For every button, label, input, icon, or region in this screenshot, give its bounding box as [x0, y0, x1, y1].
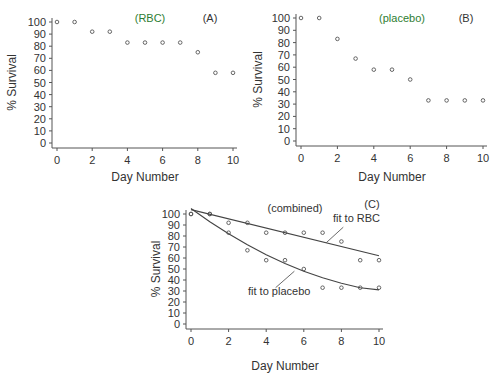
chart-panel-b: 01020304050607080901000246810Day Number%… [251, 12, 489, 184]
data-point [264, 231, 268, 235]
y-tick-label: 50 [278, 74, 290, 86]
y-tick-label: 80 [168, 230, 180, 242]
x-tick-label: 8 [195, 154, 201, 166]
y-tick-label: 40 [34, 89, 46, 101]
data-point [340, 240, 344, 244]
y-tick-label: 90 [168, 219, 180, 231]
panel-label: (A) [203, 12, 218, 24]
y-axis-label: % Survival [149, 241, 163, 298]
data-point [231, 71, 235, 75]
data-point [108, 30, 112, 34]
data-point [302, 231, 306, 235]
y-tick-label: 30 [278, 98, 290, 110]
y-tick-label: 80 [278, 37, 290, 49]
data-point [143, 41, 147, 45]
data-point [372, 68, 376, 72]
y-tick-label: 40 [168, 274, 180, 286]
panel-title: (combined) [267, 202, 322, 214]
panel-label: (C) [364, 198, 379, 210]
y-tick-label: 10 [34, 125, 46, 137]
x-tick-label: 8 [338, 335, 344, 347]
chart-figure: 01020304050607080901000246810Day Number%… [0, 0, 499, 375]
x-tick-label: 4 [124, 154, 130, 166]
data-point [377, 258, 381, 262]
annotation-fit-placebo: fit to placebo [248, 285, 310, 297]
x-tick-label: 2 [334, 152, 340, 164]
x-tick-label: 10 [477, 152, 489, 164]
panel-title: (placebo) [379, 12, 425, 24]
y-tick-label: 40 [278, 86, 290, 98]
data-point [73, 20, 77, 24]
data-point [90, 30, 94, 34]
y-tick-label: 30 [168, 285, 180, 297]
data-point [214, 71, 218, 75]
y-tick-label: 70 [34, 52, 46, 64]
y-tick-label: 50 [34, 77, 46, 89]
y-tick-label: 30 [34, 101, 46, 113]
chart-panel-c: 01020304050607080901000246810Day Number%… [149, 198, 385, 373]
x-tick-label: 8 [444, 152, 450, 164]
panel-label: (B) [459, 12, 474, 24]
x-tick-label: 6 [407, 152, 413, 164]
y-tick-label: 80 [34, 40, 46, 52]
y-tick-label: 0 [174, 318, 180, 330]
y-tick-label: 70 [168, 241, 180, 253]
data-point [336, 37, 340, 41]
y-tick-label: 70 [278, 49, 290, 61]
data-point [445, 99, 449, 103]
x-tick-label: 2 [226, 335, 232, 347]
data-point [377, 286, 381, 290]
data-point [299, 16, 303, 20]
y-tick-label: 100 [272, 12, 290, 24]
y-axis-label: % Survival [251, 51, 265, 108]
data-point [317, 16, 321, 20]
x-tick-label: 10 [373, 335, 385, 347]
chart-panel-a: 01020304050607080901000246810Day Number%… [5, 12, 239, 184]
data-point [321, 231, 325, 235]
data-point [55, 20, 59, 24]
y-tick-label: 0 [40, 137, 46, 149]
y-tick-label: 0 [284, 135, 290, 147]
x-tick-label: 0 [188, 335, 194, 347]
data-point [126, 41, 130, 45]
y-tick-label: 50 [168, 263, 180, 275]
data-point [196, 50, 200, 54]
data-point [246, 249, 250, 253]
data-point [427, 99, 431, 103]
y-tick-label: 60 [278, 61, 290, 73]
y-tick-label: 10 [278, 123, 290, 135]
data-point [321, 286, 325, 290]
y-tick-label: 100 [28, 16, 46, 28]
x-tick-label: 0 [54, 154, 60, 166]
x-tick-label: 6 [301, 335, 307, 347]
data-point [481, 99, 485, 103]
data-point [354, 57, 358, 61]
x-tick-label: 10 [227, 154, 239, 166]
x-axis-label: Day Number [251, 359, 318, 373]
data-point [189, 212, 193, 216]
y-tick-label: 20 [34, 113, 46, 125]
data-point [178, 41, 182, 45]
x-tick-label: 0 [298, 152, 304, 164]
y-tick-label: 100 [162, 208, 180, 220]
data-point [227, 221, 231, 225]
x-tick-label: 4 [263, 335, 269, 347]
y-tick-label: 20 [168, 296, 180, 308]
data-point [408, 78, 412, 82]
y-tick-label: 90 [34, 28, 46, 40]
x-tick-label: 6 [160, 154, 166, 166]
data-point [340, 286, 344, 290]
y-axis-label: % Survival [5, 54, 19, 111]
data-point [264, 258, 268, 262]
y-tick-label: 60 [34, 64, 46, 76]
data-point [463, 99, 467, 103]
x-tick-label: 4 [371, 152, 377, 164]
x-tick-label: 2 [89, 154, 95, 166]
data-point [283, 258, 287, 262]
data-point [161, 41, 165, 45]
y-tick-label: 60 [168, 252, 180, 264]
y-tick-label: 10 [168, 307, 180, 319]
annotation-fit-rbc: fit to RBC [333, 212, 380, 224]
y-tick-label: 20 [278, 110, 290, 122]
data-point [358, 258, 362, 262]
